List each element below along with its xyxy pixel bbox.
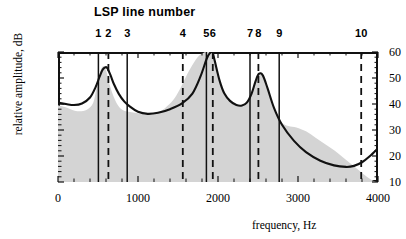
chart-canvas: [0, 0, 401, 239]
figure: LSP line number relative amplitude, dB f…: [0, 0, 401, 239]
